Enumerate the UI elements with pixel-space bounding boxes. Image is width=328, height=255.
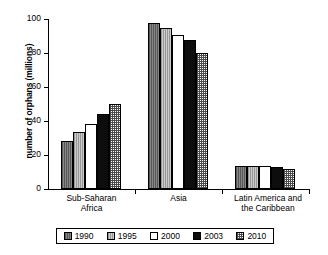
- legend-item-1990[interactable]: 1990: [64, 231, 94, 241]
- x-category-label-line-1: Latin America and: [218, 193, 318, 203]
- bar-asia-2003: [184, 40, 196, 189]
- bar-latin-america-2000: [259, 166, 271, 189]
- bar-latin-america-1995: [247, 166, 259, 189]
- legend-label-2010: 2010: [247, 231, 266, 241]
- legend-label-1990: 1990: [75, 231, 94, 241]
- x-category-label-line-2: Africa: [48, 203, 135, 213]
- y-tick-label-20: 20: [32, 149, 41, 159]
- legend-swatch-1995-icon: [107, 232, 115, 240]
- legend-label-2003: 2003: [204, 231, 223, 241]
- bar-sub-saharan-africa-1995: [73, 132, 85, 189]
- bar-asia-2010: [196, 53, 208, 189]
- bar-latin-america-2010: [283, 169, 295, 189]
- x-category-label-line-1: Asia: [135, 193, 222, 203]
- bar-sub-saharan-africa-2003: [97, 114, 109, 189]
- y-tick-0: 0: [44, 189, 48, 190]
- y-tick-label-100: 100: [27, 13, 41, 23]
- legend-swatch-2003-icon: [193, 232, 201, 240]
- x-category-label-asia: Asia: [135, 193, 222, 203]
- bar-asia-1990: [148, 23, 160, 189]
- legend-item-2010[interactable]: 2010: [236, 231, 266, 241]
- bar-latin-america-1990: [235, 166, 247, 189]
- bar-group-latin-america-and-the-caribbean: [222, 19, 309, 189]
- x-category-label-line-2: the Caribbean: [218, 203, 318, 213]
- bar-group-sub-saharan-africa: [48, 19, 135, 189]
- legend: 1990 1995 2000 2003 2010: [56, 228, 274, 244]
- bar-sub-saharan-africa-1990: [61, 141, 73, 189]
- y-tick-label-40: 40: [32, 115, 41, 125]
- y-tick-label-60: 60: [32, 81, 41, 91]
- legend-item-2000[interactable]: 2000: [150, 231, 180, 241]
- x-category-label-latin-america-and-the-caribbean: Latin America and the Caribbean: [218, 193, 318, 213]
- bar-asia-2000: [172, 35, 184, 189]
- legend-item-1995[interactable]: 1995: [107, 231, 137, 241]
- legend-swatch-2000-icon: [150, 232, 158, 240]
- y-axis-title: number of orphans (millions): [24, 16, 34, 186]
- plot-area: 0 20 40 60 80 100: [48, 19, 310, 189]
- bar-sub-saharan-africa-2000: [85, 124, 97, 189]
- x-axis-line: [48, 189, 310, 190]
- bar-asia-1995: [160, 28, 172, 190]
- bar-sub-saharan-africa-2010: [109, 104, 121, 189]
- legend-swatch-2010-icon: [236, 232, 244, 240]
- legend-label-1995: 1995: [118, 231, 137, 241]
- x-category-label-line-1: Sub-Saharan: [48, 193, 135, 203]
- y-tick-label-0: 0: [36, 183, 41, 193]
- legend-item-2003[interactable]: 2003: [193, 231, 223, 241]
- x-category-label-sub-saharan-africa: Sub-Saharan Africa: [48, 193, 135, 213]
- legend-swatch-1990-icon: [64, 232, 72, 240]
- legend-label-2000: 2000: [161, 231, 180, 241]
- bar-group-asia: [135, 19, 222, 189]
- bar-chart: number of orphans (millions) 0 20 40 60 …: [0, 0, 328, 255]
- y-tick-label-80: 80: [32, 47, 41, 57]
- bar-latin-america-2003: [271, 167, 283, 189]
